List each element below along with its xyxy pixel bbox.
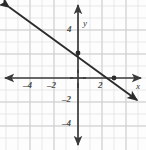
marked-points bbox=[76, 51, 117, 81]
x-intercept-point bbox=[112, 76, 117, 81]
graph-canvas bbox=[0, 0, 146, 150]
x-tick-label-neg2: –2 bbox=[47, 81, 56, 90]
minor-grid-lines bbox=[0, 0, 146, 150]
x-axis-label: x bbox=[136, 82, 140, 91]
y-intercept-point bbox=[76, 51, 81, 56]
y-tick-label-neg2: –2 bbox=[62, 95, 71, 104]
major-grid-lines bbox=[0, 0, 146, 150]
y-tick-label-neg4: –4 bbox=[62, 119, 71, 128]
x-tick-label-2: 2 bbox=[98, 81, 103, 90]
x-tick-label-neg4: –4 bbox=[23, 81, 32, 90]
coordinate-plane-figure: –4 –2 2 4 –2 –4 y x bbox=[0, 0, 146, 150]
y-axis-label: y bbox=[83, 19, 87, 28]
y-tick-label-4: 4 bbox=[67, 25, 72, 34]
